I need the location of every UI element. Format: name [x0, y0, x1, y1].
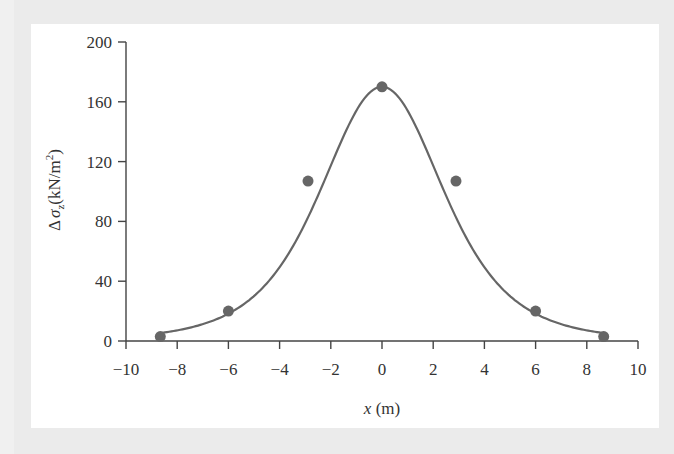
data-point-marker: [530, 306, 541, 317]
x-axis-title: x (m): [363, 399, 400, 418]
data-point-marker: [377, 81, 388, 92]
y-tick-label: 40: [95, 272, 112, 291]
x-tick-label: 6: [531, 360, 540, 379]
x-tick-label: 2: [429, 360, 438, 379]
data-curve: [160, 87, 603, 333]
y-tick-label: 0: [104, 332, 113, 351]
chart-svg: −10−8−6−4−2024681004080120160200x (m)Δσz…: [0, 0, 674, 454]
x-tick-label: 8: [583, 360, 592, 379]
x-tick-label: −10: [113, 360, 140, 379]
data-point-marker: [223, 306, 234, 317]
x-tick-label: 0: [378, 360, 387, 379]
data-point-marker: [155, 331, 166, 342]
y-tick-label: 160: [87, 93, 113, 112]
x-tick-label: 10: [630, 360, 647, 379]
y-tick-label: 80: [95, 212, 112, 231]
data-point-marker: [598, 331, 609, 342]
y-tick-label: 120: [87, 153, 113, 172]
x-tick-label: −2: [322, 360, 340, 379]
data-point-marker: [303, 176, 314, 187]
x-tick-label: −6: [219, 360, 237, 379]
x-tick-label: −8: [168, 360, 186, 379]
data-point-marker: [450, 176, 461, 187]
x-tick-label: 4: [480, 360, 489, 379]
y-axis-title: Δσz(kN/m2): [43, 149, 66, 231]
y-tick-label: 200: [87, 33, 113, 52]
x-tick-label: −4: [271, 360, 290, 379]
